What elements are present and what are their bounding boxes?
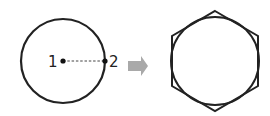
diagram-svg: 1 2: [0, 0, 270, 116]
hexagon-figure: [171, 11, 259, 111]
point-2-label: 2: [109, 53, 119, 71]
diagram-canvas: 1 2: [0, 0, 270, 116]
hexagon-outline: [172, 11, 258, 111]
circle-figure: 1 2: [21, 19, 119, 103]
inscribed-circle: [171, 17, 259, 105]
edge-point: [102, 58, 107, 63]
center-point: [60, 58, 65, 63]
point-1-label: 1: [48, 53, 58, 71]
right-arrow-icon: [128, 56, 148, 76]
